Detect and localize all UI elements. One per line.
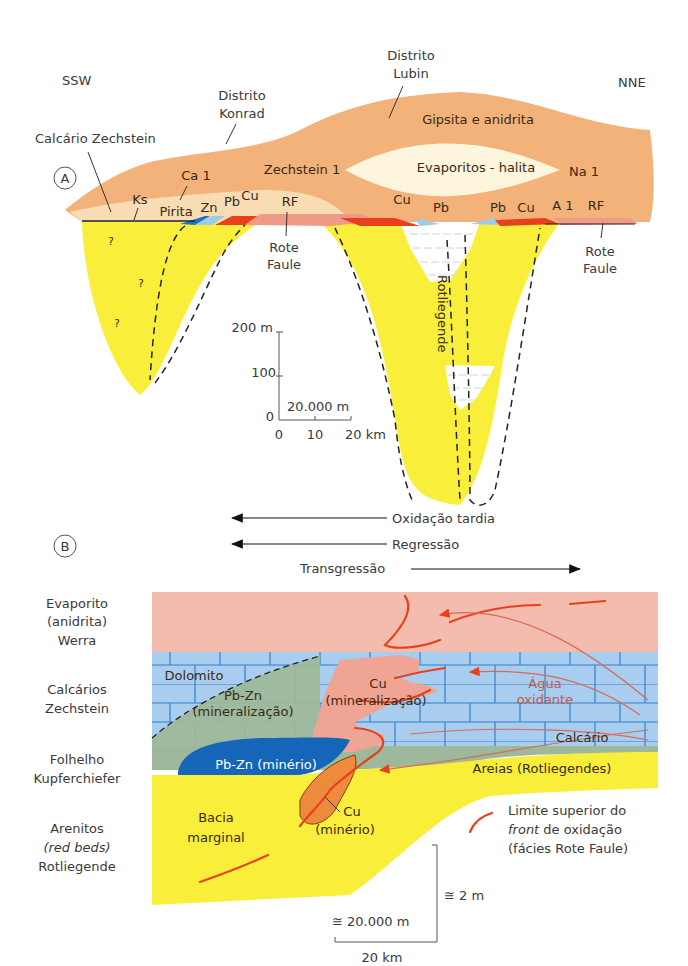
scale-a-tick-20km: 20 km [345,427,386,442]
arenitos-label-2: (red beds) [43,840,110,855]
rf-label-left: RF [282,194,299,209]
cu-minerio-label-2: (minério) [315,822,375,837]
bacia-label-2: marginal [187,830,244,845]
scale-b-horizontal: ≅ 20.000 m [332,914,409,929]
a1-label: A 1 [552,198,573,213]
rote-faule-left-line2: Faule [267,257,301,272]
calcario-zechstein-label: Calcário Zechstein [35,131,156,146]
district-konrad-line1: Distrito [218,88,266,103]
scale-a-200m: 200 m [231,320,273,335]
legend-line1: Limite superior do [508,803,626,818]
cu-minerio-label-1: Cu [343,804,360,819]
calcario-label: Calcário [556,730,609,745]
na1-label: Na 1 [569,164,599,179]
zn-label: Zn [200,200,217,215]
arenitos-label-3: Rotliegende [38,859,115,874]
rf-label-right: RF [588,198,605,213]
district-lubin-line2: Lubin [393,66,428,81]
ks-label: Ks [132,192,148,207]
cu-label-left: Cu [241,188,258,203]
panel-b-marker-label: B [61,539,70,554]
regressao-label: Regressão [392,537,459,552]
evaporito-label-3: Werra [58,633,97,648]
scale-b-20km: 20 km [362,950,403,965]
scale-a-tick-10: 10 [307,427,324,442]
evaporitos-label: Evaporitos - halita [417,160,535,175]
cu-mineral-label-2: (mineralização) [325,693,426,708]
legend-front-word: front [508,822,540,837]
process-arrows: Oxidação tardia Regressão Transgressão [232,511,580,576]
question-mark-3: ? [114,317,120,330]
scale-a-0: 0 [266,409,274,424]
cu-mineral-label-1: Cu [369,676,386,691]
ca1-label: Ca 1 [181,168,210,183]
orientation-right: NNE [618,75,646,90]
areias-label: Areias (Rotliegendes) [473,761,612,776]
scale-a-20000m: 20.000 m [287,399,349,414]
transgressao-label: Transgressão [299,561,385,576]
panel-a-section: A SSW NNE Distrito Konrad Distrito Lubin… [35,48,654,505]
pbzn-mineral-label-2: (mineralização) [192,704,293,719]
folhelho-label-1: Folhelho [50,752,105,767]
evaporito-layer [152,592,658,652]
evaporito-label-1: Evaporito [46,596,108,611]
district-lubin-line1: Distrito [387,48,435,63]
folhelho-label-2: Kupferchiefer [34,771,122,786]
pb-label-mid2: Pb [490,200,506,215]
legend-line2: front de oxidação [508,822,622,837]
dolomito-label: Dolomito [165,668,224,683]
oxidacao-tardia-label: Oxidação tardia [392,511,495,526]
pirita-label: Pirita [159,204,192,219]
cu-label-mid2: Cu [517,200,534,215]
calcarios-label-2: Zechstein [45,701,109,716]
agua-label-2: oxidante [517,692,573,707]
rote-faule-left-line1: Rote [269,240,299,255]
agua-label-1: Água [528,676,561,691]
scale-b-vertical: ≅ 2 m [444,888,484,903]
zechstein1-label: Zechstein 1 [264,162,340,177]
question-mark-2: ? [138,277,144,290]
district-konrad-line2: Konrad [219,106,265,121]
pb-label-left: Pb [224,194,240,209]
calcarios-label-1: Calcários [47,682,107,697]
pb-label-mid1: Pb [433,200,449,215]
evaporito-label-2: (anidrita) [47,614,107,629]
geologic-diagram: A SSW NNE Distrito Konrad Distrito Lubin… [0,0,688,966]
rote-faule-right-line1: Rote [585,244,615,259]
scale-a-tick-0: 0 [275,427,283,442]
rote-faule-right-line2: Faule [583,261,617,276]
pbzn-mineral-label-1: Pb-Zn [224,688,262,703]
legend-front-line-icon [470,813,492,832]
question-mark-1: ? [108,235,114,248]
pbzn-minerio-label: Pb-Zn (minério) [215,757,317,772]
rotliegende-label: Rotliegende [435,275,450,352]
legend-front-rest: de oxidação [539,822,622,837]
bacia-label-1: Bacia [198,810,234,825]
gipsita-label: Gipsita e anidrita [422,112,534,127]
orientation-left: SSW [62,73,92,88]
scale-a-100: 100 [251,365,276,380]
legend-line3: (fácies Rote Faule) [508,841,628,856]
panel-a-marker-label: A [61,171,70,186]
cu-label-mid: Cu [393,192,410,207]
panel-b-section: B [34,535,658,965]
arenitos-label-1: Arenitos [50,821,104,836]
